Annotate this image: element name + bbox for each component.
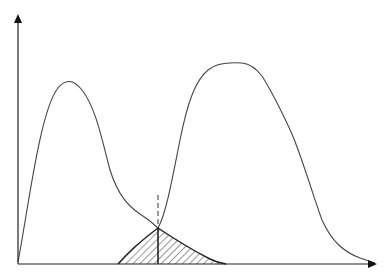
y-axis: [14, 14, 22, 264]
y-axis-arrow-icon: [14, 14, 22, 23]
diagram-canvas: [0, 0, 392, 280]
x-axis-arrow-icon: [368, 260, 377, 268]
left-distribution-curve: [18, 81, 158, 262]
overlap-region: [110, 220, 235, 265]
right-distribution-curve: [158, 63, 375, 263]
